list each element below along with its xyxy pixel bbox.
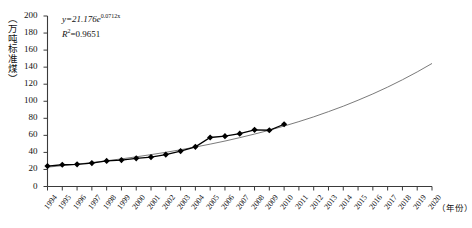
data-point-marker bbox=[44, 163, 50, 169]
data-point-marker bbox=[251, 127, 257, 133]
data-point-marker bbox=[59, 162, 65, 168]
y-tick-label: 160 bbox=[12, 44, 38, 54]
x-axis-title: （年份） bbox=[437, 201, 472, 213]
x-axis-ticks bbox=[48, 187, 433, 191]
fit-curve-path bbox=[48, 63, 433, 167]
data-point-marker bbox=[237, 131, 243, 137]
series-data-markers bbox=[44, 121, 287, 169]
y-tick-label: 120 bbox=[12, 78, 38, 88]
y-tick-label: 200 bbox=[12, 10, 38, 20]
data-point-marker bbox=[207, 134, 213, 140]
data-line-path bbox=[48, 124, 285, 166]
y-tick-label: 100 bbox=[12, 95, 38, 105]
y-tick-label: 60 bbox=[12, 129, 38, 139]
data-point-marker bbox=[192, 144, 198, 150]
data-point-marker bbox=[118, 157, 124, 163]
data-point-marker bbox=[266, 127, 272, 133]
y-tick-label: 20 bbox=[12, 163, 38, 173]
data-point-marker bbox=[74, 161, 80, 167]
y-tick-label: 0 bbox=[12, 181, 38, 191]
y-tick-label: 180 bbox=[12, 27, 38, 37]
data-point-marker bbox=[89, 160, 95, 166]
y-tick-label: 140 bbox=[12, 61, 38, 71]
y-tick-label: 80 bbox=[12, 112, 38, 122]
data-point-marker bbox=[104, 158, 110, 164]
y-tick-label: 40 bbox=[12, 146, 38, 156]
series-data-line bbox=[48, 124, 285, 166]
y-axis-ticks bbox=[44, 16, 48, 187]
series-fit-curve bbox=[48, 63, 433, 167]
data-point-marker bbox=[222, 133, 228, 139]
